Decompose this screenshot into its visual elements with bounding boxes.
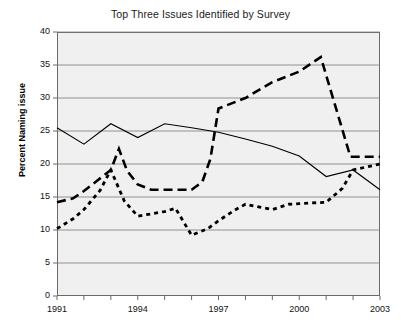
plot-area bbox=[57, 32, 380, 296]
chart-container: Top Three Issues Identified by Survey Pe… bbox=[0, 0, 401, 330]
y-tick-label: 10 bbox=[28, 225, 50, 234]
x-tick-label: 1991 bbox=[37, 305, 77, 314]
x-tick-label: 2000 bbox=[279, 305, 319, 314]
y-tick-label: 35 bbox=[28, 60, 50, 69]
x-tick-label: 1994 bbox=[118, 305, 158, 314]
y-tick-label: 30 bbox=[28, 93, 50, 102]
y-axis-title: Percent Naming issue bbox=[17, 65, 27, 195]
y-tick-label: 15 bbox=[28, 192, 50, 201]
y-tick-label: 40 bbox=[28, 27, 50, 36]
y-tick-label: 20 bbox=[28, 159, 50, 168]
x-tick-label: 1997 bbox=[199, 305, 239, 314]
x-tick-label: 2003 bbox=[360, 305, 400, 314]
y-tick-label: 25 bbox=[28, 126, 50, 135]
y-tick-label: 0 bbox=[28, 291, 50, 300]
plot-background bbox=[57, 32, 380, 296]
y-tick-label: 5 bbox=[28, 258, 50, 267]
chart-title: Top Three Issues Identified by Survey bbox=[0, 8, 401, 21]
